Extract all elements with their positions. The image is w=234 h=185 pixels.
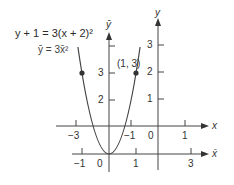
x-tick-1: 1	[182, 131, 188, 141]
x-tick-neg1: −1	[124, 131, 135, 141]
xbar-tick-neg1: −1	[74, 159, 85, 169]
ybar-tick-2: 2	[98, 95, 104, 105]
y-axis-label: y	[155, 8, 160, 18]
y-tick-3: 3	[147, 40, 153, 50]
ybar-tick-3: 3	[98, 68, 104, 78]
original-equation-text: y + 1 = 3(x + 2)²	[15, 27, 93, 39]
xbar-tick-1: 1	[133, 159, 139, 169]
point-label: (1, 3)	[117, 59, 140, 69]
point-marker-left	[79, 70, 84, 75]
xbar-axis-arrow-icon	[201, 151, 209, 157]
y-axis-arrow-icon	[155, 18, 161, 26]
y-tick-2: 2	[147, 67, 153, 77]
xbar-axis	[72, 148, 209, 157]
x-axis	[56, 120, 209, 129]
ybar-axis-label: ȳ	[106, 20, 111, 30]
ybar-axis-arrow-icon	[106, 32, 112, 40]
translated-equation-text: ȳ = 3x̄²	[38, 44, 68, 55]
xbar-tick-3: 3	[188, 159, 194, 169]
x-tick-neg3: −3	[68, 131, 79, 141]
y-tick-1: 1	[147, 94, 153, 104]
xbar-tick-0: 0	[97, 159, 103, 169]
xbar-axis-label: x̄	[212, 149, 217, 159]
x-axis-arrow-icon	[201, 123, 209, 129]
translated-equation-label: ȳ = 3x̄²	[38, 45, 68, 55]
original-equation-label: y + 1 = 3(x + 2)²	[15, 28, 93, 39]
x-axis-label: x	[212, 121, 217, 131]
point-marker-right	[133, 70, 138, 75]
x-tick-0: 0	[148, 131, 154, 141]
y-axis	[155, 18, 164, 170]
